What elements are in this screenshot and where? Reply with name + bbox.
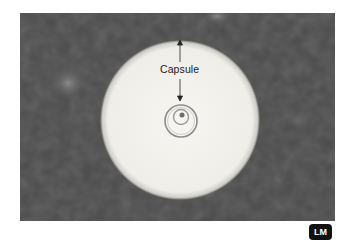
background-blob bbox=[46, 63, 90, 103]
micrograph-image bbox=[20, 13, 335, 221]
capsule-label: Capsule bbox=[160, 63, 199, 75]
micrograph-graphic bbox=[20, 13, 335, 221]
lm-badge: LM bbox=[309, 224, 332, 240]
